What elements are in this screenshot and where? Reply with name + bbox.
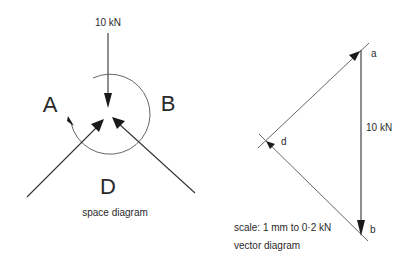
arc-arrowhead [67,116,74,126]
vector-a-arrowhead [349,51,360,61]
region-b-label: B [161,91,176,116]
diagram-canvas: 10 kN A B D space diagram a b d 10 kN [0,0,412,273]
load-arrowhead [104,93,112,108]
scale-label: scale: 1 mm to 0·2 kN [234,222,331,233]
right-member-line [118,123,195,193]
vector-load-label: 10 kN [366,122,392,133]
region-d-label: D [100,174,116,199]
point-a-label: a [371,48,377,59]
point-b-label: b [370,224,376,235]
vector-b-arrowhead [357,220,365,236]
left-member-arrowhead [91,119,104,132]
space-diagram-caption: space diagram [82,207,148,218]
clockwise-arc [71,74,150,154]
vector-diagram: a b d 10 kN scale: 1 mm to 0·2 kN vector… [234,43,392,251]
left-member-line [27,126,98,197]
region-a-label: A [43,92,58,117]
vector-diagram-caption: vector diagram [234,240,300,251]
line-a-d [258,43,369,148]
space-diagram: 10 kN A B D space diagram [27,17,195,218]
point-d-label: d [281,136,287,147]
space-load-label: 10 kN [95,17,121,28]
